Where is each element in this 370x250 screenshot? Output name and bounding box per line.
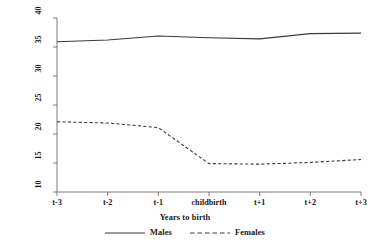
legend-item-females: Females <box>190 228 265 237</box>
legend-swatch-dashed <box>190 229 230 237</box>
y-axis-ticks <box>53 18 57 192</box>
chart-legend: Males Females <box>0 228 370 237</box>
x-axis-ticks <box>57 192 361 196</box>
series-line-males <box>57 33 361 42</box>
x-axis-title: Years to birth <box>0 213 370 222</box>
axes <box>53 18 361 196</box>
series-line-females <box>57 122 361 164</box>
legend-item-males: Males <box>105 228 172 237</box>
chart-container: Average number of hours worked 101520253… <box>0 0 370 250</box>
legend-swatch-solid <box>105 229 145 237</box>
legend-label-females: Females <box>235 228 265 237</box>
data-series-group <box>57 33 361 164</box>
legend-label-males: Males <box>150 228 172 237</box>
